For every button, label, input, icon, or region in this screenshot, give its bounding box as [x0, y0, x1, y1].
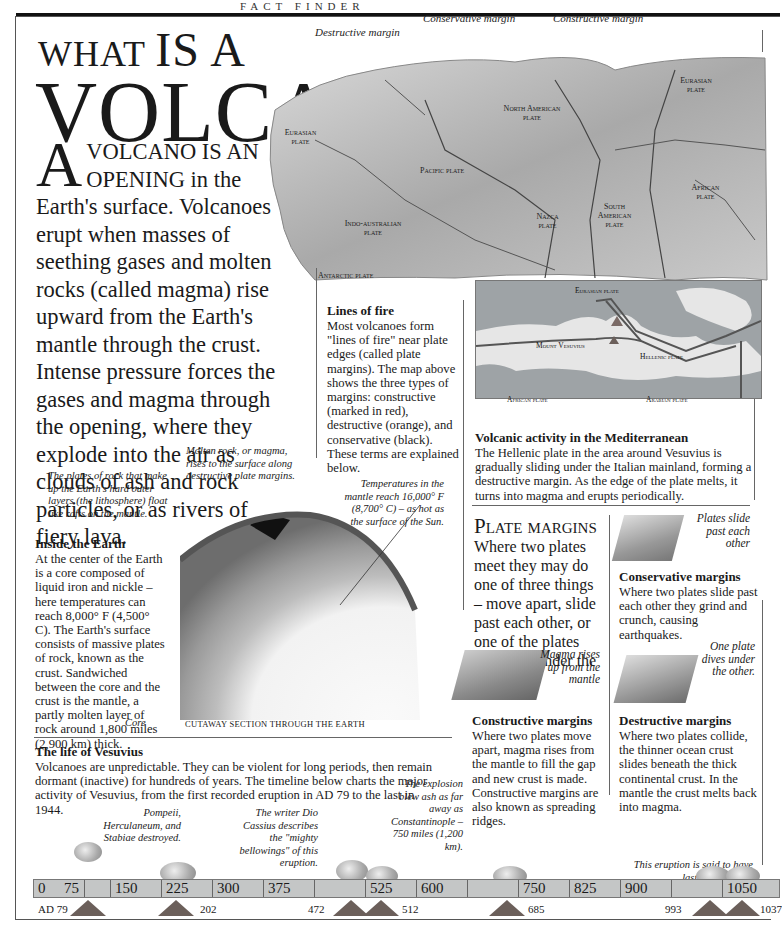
conservative-margin-block-icon [612, 515, 684, 561]
plate-label-antarctic: Antarctic plate [318, 271, 388, 280]
volcano-cone-icon [158, 900, 194, 916]
drop-cap: A [36, 140, 82, 190]
destructive-margin-block-icon [614, 655, 699, 703]
plate-label-pacific: Pacific plate [412, 166, 472, 175]
volcano-cone-icon [724, 900, 760, 916]
med-label-african: African plate [507, 395, 548, 404]
conservative-body: Where two plates slide past each other t… [619, 585, 759, 642]
caption-magma: Molten rock, or magma, rises to the surf… [186, 445, 306, 483]
volcano-cone-icon [692, 900, 728, 916]
plate-label-indo-australian: Indo-australian plate [338, 219, 408, 237]
med-label-arabian: Arabian plate [646, 395, 687, 404]
column-divider [316, 268, 317, 458]
plate-label-eurasian-west: Eurasian plate [278, 128, 323, 146]
caption-constructive: Magma rises up from the mantle [540, 648, 600, 686]
lines-of-fire-body: Most volcanoes form "lines of fire" near… [327, 319, 462, 475]
eruption-date: 1037 [760, 903, 782, 915]
vesuvius-heading: The life of Vesuvius [35, 744, 435, 760]
plate-label-south-american: South American plate [592, 202, 637, 229]
inside-earth-heading: Inside the Earth [35, 536, 165, 552]
mediterranean-heading: Volcanic activity in the Mediterranean [475, 430, 755, 446]
conservative-section: Conservative margins Where two plates sl… [619, 569, 759, 642]
constructive-margin-block-icon [451, 650, 549, 700]
caption-lithosphere: The plates of rock that make up the Eart… [48, 470, 168, 520]
volcano-cone-icon [363, 900, 399, 916]
cutaway-section-label: CUTAWAY SECTION THROUGH THE EARTH [185, 719, 365, 729]
timeline-bar: 0 75 150 225 300 375 525 600 750 825 900… [33, 879, 780, 898]
constructive-section: Constructive margins Where two plates mo… [472, 713, 607, 828]
caption-conservative: Plates slide past each other [690, 512, 750, 550]
constructive-body: Where two plates move apart, magma rises… [472, 729, 607, 828]
conservative-margin-callout: Conservative margin [423, 12, 515, 24]
lines-of-fire-section: Lines of fire Most volcanoes form "lines… [327, 303, 462, 475]
note-472: The explosion blew ash as far away as Co… [383, 778, 463, 853]
column-divider [609, 515, 610, 795]
destructive-margin-callout: Destructive margin [315, 26, 400, 38]
destructive-section: Destructive margins Where two plates col… [619, 713, 759, 814]
volcano-triangle-icon [609, 336, 619, 344]
inside-earth-section: Inside the Earth At the center of the Ea… [35, 536, 165, 751]
plate-label-african: African plate [688, 183, 723, 201]
section-divider [472, 505, 750, 506]
conservative-heading: Conservative margins [619, 569, 759, 585]
plate-label-eurasian-east: Eurasian plate [676, 76, 716, 94]
plate-label-north-american: North American plate [497, 104, 567, 122]
eruption-date: AD 79 [38, 903, 68, 915]
eruption-date: 993 [665, 903, 682, 915]
eruption-date: 685 [528, 903, 545, 915]
vesuvius-section: The life of Vesuvius Volcanoes are unpre… [35, 744, 435, 817]
med-label-vesuvius: Mount Vesuvius [536, 341, 585, 350]
section-divider [34, 737, 452, 738]
volcano-cone-icon [489, 900, 525, 916]
destructive-body: Where two plates collide, the thinner oc… [619, 729, 759, 814]
column-divider [762, 600, 763, 865]
med-label-hellenic: Hellenic plate [640, 352, 683, 361]
earth-cutaway-illustration [180, 500, 420, 720]
plate-label-nazca: Nazca plate [530, 212, 565, 230]
volcano-cone-icon [70, 900, 106, 916]
mediterranean-section: Volcanic activity in the Mediterranean T… [475, 430, 755, 503]
med-label-eurasian: Eurasian plate [575, 286, 619, 295]
eruption-plume-icon [74, 842, 102, 862]
inside-earth-body: At the center of the Earth is a core com… [35, 552, 165, 751]
mediterranean-body: The Hellenic plate in the area around Ve… [475, 446, 755, 503]
note-ad79: Pompeii, Herculaneum, and Stabiae destro… [86, 807, 181, 845]
constructive-heading: Constructive margins [472, 713, 607, 729]
column-divider [463, 300, 464, 610]
caption-destructive: One plate dives under the other. [690, 640, 755, 678]
plate-margins-title: Plate margins [474, 515, 604, 537]
note-202: The writer Dio Cassius describes the "mi… [228, 807, 318, 870]
constructive-margin-callout: Constructive margin [553, 12, 643, 24]
running-header: FACT FINDER [240, 0, 365, 12]
eruption-date: 512 [402, 903, 419, 915]
eruption-date: 202 [200, 903, 217, 915]
lines-of-fire-heading: Lines of fire [327, 303, 462, 319]
eruption-date: 472 [308, 903, 325, 915]
destructive-heading: Destructive margins [619, 713, 759, 729]
